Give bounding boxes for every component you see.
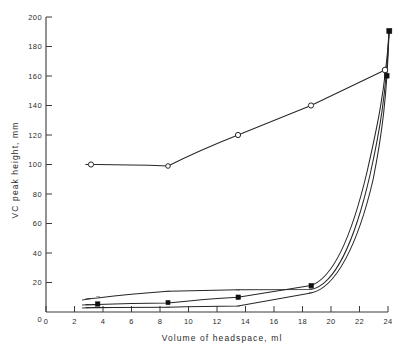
- data-point-square-top: [387, 29, 392, 34]
- x-tick-label-16: 16: [269, 317, 278, 326]
- y-tick-label-80: 80: [33, 190, 42, 199]
- y-axis-title: VC peak height, mm: [10, 122, 20, 219]
- x-tick-label-8: 8: [158, 317, 163, 326]
- data-point-open-circle-3: [235, 132, 240, 137]
- x-tick-label-10: 10: [184, 317, 193, 326]
- x-tick-label-22: 22: [355, 317, 364, 326]
- x-tick-label-12: 12: [212, 317, 221, 326]
- x-tick-label-18: 18: [298, 317, 307, 326]
- x-tick-label-20: 20: [326, 317, 335, 326]
- x-tick-label-2: 2: [72, 317, 77, 326]
- y-tick-label-120: 120: [28, 131, 42, 140]
- y-tick-label-60: 60: [33, 219, 42, 228]
- data-point-square-2: [166, 301, 170, 305]
- data-point-open-circle-5: [382, 67, 388, 73]
- y-tick-label-200: 200: [28, 13, 42, 22]
- y-tick-label-0: 0: [37, 315, 42, 324]
- x-tick-label-4: 4: [101, 317, 106, 326]
- y-tick-label-20: 20: [33, 278, 42, 287]
- x-tick-label-14: 14: [241, 317, 250, 326]
- x-tick-label-0: 0: [44, 317, 49, 326]
- x-tick-label-6: 6: [129, 317, 134, 326]
- line-chart-svg: 200 180 160 140 120 100 80 60 40 20 0: [0, 0, 410, 349]
- data-point-open-circle-2: [166, 164, 171, 169]
- y-tick-label-140: 140: [28, 101, 42, 110]
- y-tick-label-100: 100: [28, 160, 42, 169]
- data-point-open-circle-1: [88, 162, 93, 167]
- y-tick-label-160: 160: [28, 72, 42, 81]
- y-tick-label-40: 40: [33, 249, 42, 258]
- data-point-square-5: [385, 74, 390, 79]
- data-point-square-3: [236, 295, 240, 299]
- x-axis-title: Volume of headspace, ml: [162, 333, 283, 343]
- data-point-square-1: [96, 302, 100, 306]
- data-point-open-circle-4: [308, 103, 313, 108]
- data-point-square-4: [309, 284, 313, 288]
- chart-figure: 200 180 160 140 120 100 80 60 40 20 0: [0, 0, 410, 349]
- x-tick-label-24: 24: [383, 317, 392, 326]
- chart-background: [0, 0, 410, 349]
- y-tick-label-180: 180: [28, 42, 42, 51]
